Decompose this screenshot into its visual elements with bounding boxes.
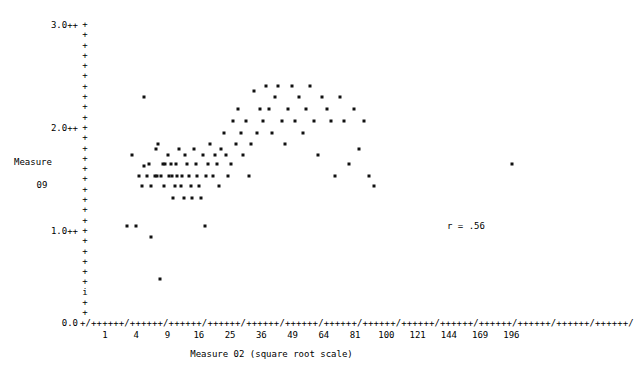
data-point (329, 120, 332, 123)
data-point (200, 196, 203, 199)
data-point (205, 174, 208, 177)
data-point (187, 174, 190, 177)
data-point (321, 96, 324, 99)
data-point (267, 107, 270, 110)
data-point (220, 147, 223, 150)
data-point (244, 120, 247, 123)
data-point (156, 174, 159, 177)
data-point (183, 196, 186, 199)
data-point (213, 153, 216, 156)
data-point (173, 185, 176, 188)
data-point (353, 107, 356, 110)
data-point (253, 90, 256, 93)
data-point (270, 131, 273, 134)
data-point (317, 153, 320, 156)
data-point (313, 120, 316, 123)
data-point (184, 153, 187, 156)
data-point (209, 143, 212, 146)
data-point (277, 84, 280, 87)
data-point (160, 174, 163, 177)
data-point (169, 163, 172, 166)
data-point (179, 185, 182, 188)
x-tick-label: 25 (225, 330, 236, 340)
data-point (297, 96, 300, 99)
data-point (201, 153, 204, 156)
data-point (290, 84, 293, 87)
x-tick-label: 196 (503, 330, 519, 340)
data-point (176, 174, 179, 177)
data-point (247, 174, 250, 177)
data-point (154, 147, 157, 150)
data-point (191, 196, 194, 199)
x-tick-label: 169 (472, 330, 488, 340)
data-point (280, 120, 283, 123)
data-point (261, 120, 264, 123)
data-point (222, 131, 225, 134)
data-point (232, 120, 235, 123)
data-point (170, 174, 173, 177)
data-point (250, 143, 253, 146)
x-tick-label: 100 (378, 330, 394, 340)
data-point (198, 185, 201, 188)
data-point (147, 163, 150, 166)
x-tick-label-group: 149162536496481100121144169196 (0, 330, 543, 344)
x-tick-label: 64 (318, 330, 329, 340)
data-point (207, 163, 210, 166)
data-point (217, 185, 220, 188)
data-point (343, 120, 346, 123)
x-tick-label: 49 (287, 330, 298, 340)
data-point (215, 163, 218, 166)
x-axis-title: Measure 02 (square root scale) (0, 349, 543, 360)
data-point (174, 163, 177, 166)
data-point (229, 163, 232, 166)
data-point (305, 107, 308, 110)
data-point (149, 236, 152, 239)
data-point (186, 163, 189, 166)
data-point (357, 147, 360, 150)
x-tick-label: 144 (441, 330, 457, 340)
data-point (134, 224, 137, 227)
data-point (145, 174, 148, 177)
data-point (196, 174, 199, 177)
data-point (258, 107, 261, 110)
x-tick-label: 9 (165, 330, 170, 340)
data-point (338, 96, 341, 99)
x-tick-label: 81 (350, 330, 361, 340)
data-point (283, 143, 286, 146)
data-point (368, 174, 371, 177)
data-point (225, 153, 228, 156)
data-point (309, 84, 312, 87)
data-point (334, 174, 337, 177)
data-point (142, 165, 145, 168)
data-point (203, 224, 206, 227)
data-point (274, 96, 277, 99)
data-point (171, 196, 174, 199)
x-tick-label: 1 (102, 330, 107, 340)
x-tick-label: 4 (134, 330, 139, 340)
x-axis-line: +/++++++/++++++/++++++/++++++/++++++/+++… (80, 318, 634, 328)
data-point (325, 107, 328, 110)
data-point (287, 107, 290, 110)
data-point (190, 185, 193, 188)
data-point (211, 174, 214, 177)
data-point (373, 185, 376, 188)
data-point (348, 163, 351, 166)
data-point (157, 143, 160, 146)
x-tick-label: 121 (409, 330, 425, 340)
data-point (242, 153, 245, 156)
data-point (177, 147, 180, 150)
data-point (181, 174, 184, 177)
data-point (227, 174, 230, 177)
data-point (167, 153, 170, 156)
data-point (143, 96, 146, 99)
data-point (362, 120, 365, 123)
data-point (193, 147, 196, 150)
data-point (141, 185, 144, 188)
data-point (234, 143, 237, 146)
x-tick-label: 36 (256, 330, 267, 340)
data-point (131, 153, 134, 156)
data-point (510, 163, 513, 166)
data-point (255, 131, 258, 134)
